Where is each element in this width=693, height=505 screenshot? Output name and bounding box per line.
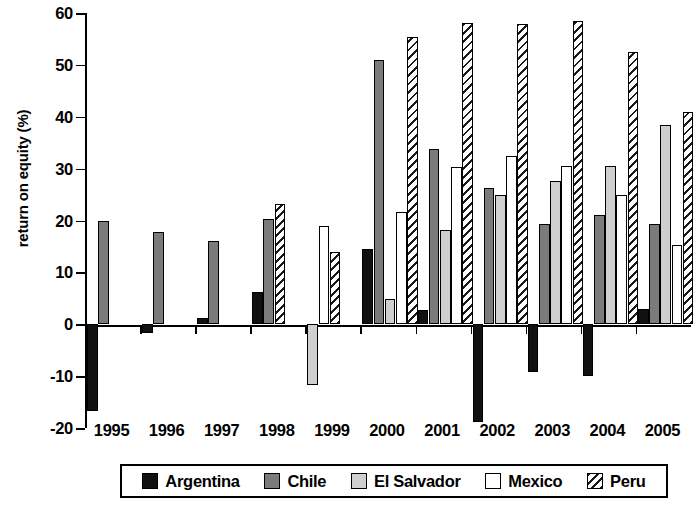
bar [418, 310, 429, 324]
bar [517, 24, 528, 324]
bar [649, 224, 660, 324]
x-tick-label-2000: 2000 [369, 421, 405, 440]
bar [362, 249, 373, 324]
legend-label: El Salvador [374, 472, 461, 491]
bar [638, 309, 649, 325]
y-tick [76, 65, 85, 67]
x-tick [360, 325, 362, 334]
x-tick [195, 325, 197, 334]
legend-label: Peru [610, 472, 645, 491]
x-tick-label-1997: 1997 [204, 421, 240, 440]
legend-item-chile: Chile [264, 472, 326, 491]
bar [473, 324, 484, 422]
y-tick [76, 324, 85, 326]
bar [330, 252, 341, 325]
y-axis-title: return on equity (%) [14, 69, 31, 289]
x-tick-label-1995: 1995 [94, 421, 130, 440]
legend-item-peru: Peru [587, 472, 645, 491]
y-tick-label: 50 [55, 55, 73, 74]
y-tick-label: 0 [64, 315, 73, 334]
bar [628, 52, 639, 324]
x-tick-label-1998: 1998 [259, 421, 295, 440]
y-tick-label: -20 [50, 419, 73, 438]
bar [484, 188, 495, 324]
bar [374, 60, 385, 324]
y-tick [76, 13, 85, 15]
bar [252, 292, 263, 324]
x-tick-label-2002: 2002 [479, 421, 515, 440]
legend-swatch-icon [587, 473, 603, 489]
x-tick-label-1996: 1996 [149, 421, 185, 440]
x-tick [250, 325, 252, 334]
bar [451, 167, 462, 325]
legend-label: Mexico [508, 472, 562, 491]
bar [407, 37, 418, 324]
x-tick-label-1999: 1999 [314, 421, 350, 440]
bar [385, 299, 396, 324]
x-tick [416, 325, 418, 334]
y-tick [76, 117, 85, 119]
y-tick-label: 20 [55, 211, 73, 230]
y-tick-label: 30 [55, 159, 73, 178]
chart-legend: ArgentinaChileEl SalvadorMexicoPeru [120, 464, 668, 498]
bar [142, 324, 153, 332]
y-tick-label: -10 [50, 367, 73, 386]
bar [98, 221, 109, 325]
bar [275, 204, 286, 324]
bar [197, 318, 208, 324]
bar [573, 21, 584, 324]
legend-swatch-icon [142, 473, 158, 489]
bar [87, 324, 98, 411]
bar [539, 224, 550, 325]
bar [561, 166, 572, 325]
bar [550, 181, 561, 324]
bar [672, 245, 683, 324]
bar [440, 230, 451, 324]
bar [528, 324, 539, 372]
y-tick-label: 10 [55, 263, 73, 282]
bar [396, 212, 407, 324]
bar [616, 195, 627, 325]
bar [683, 112, 693, 325]
legend-swatch-icon [351, 473, 367, 489]
bar [495, 195, 506, 325]
bar [506, 156, 517, 325]
y-tick-label: 40 [55, 107, 73, 126]
legend-label: Argentina [165, 472, 239, 491]
y-tick [76, 169, 85, 171]
x-tick-label-2001: 2001 [424, 421, 460, 440]
bar [605, 166, 616, 325]
x-tick-label-2003: 2003 [535, 421, 571, 440]
bar [263, 219, 274, 324]
x-tick-label-2005: 2005 [645, 421, 681, 440]
y-tick [76, 221, 85, 223]
y-tick-label: 60 [55, 4, 73, 23]
bar [307, 324, 318, 385]
x-tick [636, 325, 638, 334]
bar [208, 241, 219, 325]
legend-item-mexico: Mexico [485, 472, 562, 491]
zero-baseline [85, 325, 691, 327]
legend-label: Chile [287, 472, 326, 491]
bar [429, 149, 440, 324]
x-tick-label-2004: 2004 [590, 421, 626, 440]
bar [319, 226, 330, 325]
plot-area: 6050403020100-10-20 19951996199719981999… [85, 13, 691, 428]
legend-item-el-salvador: El Salvador [351, 472, 461, 491]
y-tick [76, 428, 85, 430]
bar [594, 215, 605, 324]
bar [462, 23, 473, 324]
legend-item-argentina: Argentina [142, 472, 239, 491]
legend-swatch-icon [485, 473, 501, 489]
bar [660, 125, 671, 325]
bar [583, 324, 594, 376]
bar [153, 232, 164, 324]
y-tick [76, 376, 85, 378]
legend-swatch-icon [264, 473, 280, 489]
y-tick [76, 272, 85, 274]
